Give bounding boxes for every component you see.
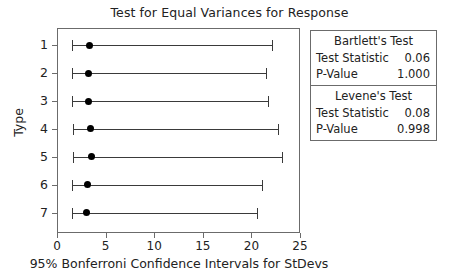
stats-row: Test Statistic0.06: [311, 51, 436, 67]
y-axis-tick-label: 4: [28, 121, 48, 136]
y-axis-tick-label: 3: [28, 93, 48, 108]
stats-block: Levene's TestTest Statistic0.08P-Value0.…: [311, 85, 436, 140]
confidence-interval-line: [73, 129, 278, 130]
confidence-interval-row: [58, 67, 299, 81]
y-axis-tick-label: 5: [28, 149, 48, 164]
stats-row-value: 0.08: [404, 106, 430, 120]
confidence-interval-row: [58, 151, 299, 165]
interval-upper-cap: [268, 96, 269, 107]
interval-point-marker: [88, 153, 95, 160]
interval-point-marker: [86, 42, 93, 49]
interval-lower-cap: [72, 180, 73, 191]
y-axis-tick: [52, 101, 57, 102]
interval-point-marker: [85, 70, 92, 77]
x-axis-tick: [251, 233, 252, 238]
interval-point-marker: [85, 98, 92, 105]
x-axis-tick-label: 25: [285, 239, 315, 253]
confidence-interval-line: [72, 101, 268, 102]
interval-upper-cap: [282, 152, 283, 163]
x-axis-tick-label: 5: [91, 239, 121, 253]
confidence-interval-line: [72, 45, 272, 46]
y-axis-tick-label: 2: [28, 65, 48, 80]
x-axis-tick: [300, 233, 301, 238]
x-axis-tick: [106, 233, 107, 238]
interval-lower-cap: [72, 40, 73, 51]
x-axis-tick: [154, 233, 155, 238]
interval-point-marker: [87, 125, 94, 132]
y-axis-tick: [52, 73, 57, 74]
x-axis-title: 95% Bonferroni Confidence Intervals for …: [0, 256, 358, 271]
interval-lower-cap: [72, 96, 73, 107]
y-axis-title: Type: [11, 93, 26, 153]
y-axis-tick: [52, 213, 57, 214]
y-axis-tick: [52, 185, 57, 186]
interval-point-marker: [84, 181, 91, 188]
plot-area: [57, 28, 300, 233]
stats-row-label: Test Statistic: [316, 106, 389, 120]
stats-block: Bartlett's TestTest Statistic0.06P-Value…: [311, 31, 436, 85]
interval-lower-cap: [72, 208, 73, 219]
interval-plot-container: [58, 29, 299, 232]
x-axis-tick-label: 10: [139, 239, 169, 253]
confidence-interval-row: [58, 39, 299, 53]
interval-lower-cap: [72, 68, 73, 79]
stats-row-label: P-Value: [316, 67, 358, 81]
y-axis-tick-label: 6: [28, 177, 48, 192]
x-axis-tick: [57, 233, 58, 238]
stats-row-value: 0.06: [404, 51, 430, 65]
interval-upper-cap: [262, 180, 263, 191]
interval-upper-cap: [266, 68, 267, 79]
stats-row: P-Value0.998: [311, 122, 436, 140]
y-axis-tick-label: 1: [28, 37, 48, 52]
x-axis-tick: [203, 233, 204, 238]
y-axis-tick: [52, 45, 57, 46]
y-axis-tick-label: 7: [28, 205, 48, 220]
stats-row-label: P-Value: [316, 122, 358, 136]
confidence-interval-line: [72, 73, 266, 74]
interval-upper-cap: [272, 40, 273, 51]
stats-block-heading: Bartlett's Test: [311, 31, 436, 51]
confidence-interval-row: [58, 123, 299, 137]
stats-block-heading: Levene's Test: [311, 86, 436, 106]
equal-variances-chart: Test for Equal Variances for Response 05…: [0, 0, 459, 279]
confidence-interval-line: [73, 157, 282, 158]
interval-lower-cap: [73, 152, 74, 163]
stats-panel: Bartlett's TestTest Statistic0.06P-Value…: [310, 30, 437, 141]
interval-upper-cap: [257, 208, 258, 219]
confidence-interval-line: [72, 213, 258, 214]
x-axis-tick-label: 0: [42, 239, 72, 253]
interval-upper-cap: [278, 124, 279, 135]
stats-row-value: 0.998: [397, 122, 430, 136]
x-axis-tick-label: 15: [188, 239, 218, 253]
stats-row: Test Statistic0.08: [311, 106, 436, 122]
confidence-interval-row: [58, 179, 299, 193]
confidence-interval-row: [58, 95, 299, 109]
confidence-interval-line: [72, 185, 263, 186]
y-axis-tick: [52, 129, 57, 130]
confidence-interval-row: [58, 207, 299, 221]
interval-lower-cap: [73, 124, 74, 135]
y-axis-tick: [52, 157, 57, 158]
stats-row: P-Value1.000: [311, 67, 436, 85]
stats-row-value: 1.000: [397, 67, 430, 81]
stats-row-label: Test Statistic: [316, 51, 389, 65]
interval-point-marker: [83, 209, 90, 216]
x-axis-tick-label: 20: [236, 239, 266, 253]
page-title: Test for Equal Variances for Response: [0, 5, 459, 20]
